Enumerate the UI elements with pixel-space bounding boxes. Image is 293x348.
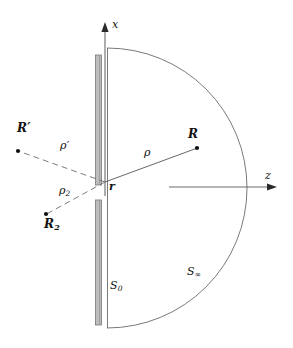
subscript-2-R: 2 bbox=[54, 222, 60, 232]
subscript-infinity-s: ∞ bbox=[195, 270, 201, 279]
z-axis-arrowhead bbox=[267, 183, 277, 190]
x-axis-arrowhead bbox=[101, 22, 108, 32]
prime-mark-rho: ′ bbox=[67, 139, 70, 152]
point-label-R-prime-base: R bbox=[17, 121, 27, 135]
point-label-R-prime: R′ bbox=[17, 122, 30, 134]
diagram-canvas bbox=[0, 0, 293, 348]
ray-rho-prime-line bbox=[20, 152, 106, 183]
ray-label-rho: ρ bbox=[144, 147, 150, 158]
z-axis-label: z bbox=[265, 170, 271, 181]
ray-label-rho-2-base: ρ bbox=[59, 184, 65, 197]
point-label-R-2-base: R bbox=[44, 217, 54, 231]
point-marker-R-2 bbox=[44, 212, 48, 216]
screen-upper-segment bbox=[96, 55, 102, 185]
ray-label-rho-prime: ρ′ bbox=[60, 140, 69, 151]
diffraction-geometry-figure: x z R R′ R2 ρ ρ′ ρ2 r S0 S∞ bbox=[0, 0, 293, 348]
point-label-R: R bbox=[188, 128, 198, 140]
origin-point-label-r: r bbox=[109, 181, 115, 192]
surface-label-s-infinity-base: S bbox=[187, 265, 195, 278]
subscript-2-rho: 2 bbox=[66, 189, 71, 198]
surface-label-s0-base: S bbox=[110, 279, 118, 292]
hemisphere-arc-s-infinity bbox=[107, 48, 247, 328]
subscript-0-s: 0 bbox=[118, 284, 123, 293]
point-marker-R-prime bbox=[16, 149, 20, 153]
ray-label-rho-prime-base: ρ bbox=[60, 139, 66, 152]
prime-mark-R: ′ bbox=[27, 121, 30, 135]
point-label-R-2: R2 bbox=[44, 218, 60, 231]
point-marker-R bbox=[195, 146, 199, 150]
screen-lower-segment bbox=[96, 200, 102, 325]
ray-label-rho-2: ρ2 bbox=[59, 185, 70, 198]
surface-label-s-infinity: S∞ bbox=[187, 266, 201, 279]
surface-label-s0: S0 bbox=[110, 280, 122, 293]
x-axis-label: x bbox=[112, 19, 118, 30]
ray-rho-line bbox=[105, 149, 196, 183]
